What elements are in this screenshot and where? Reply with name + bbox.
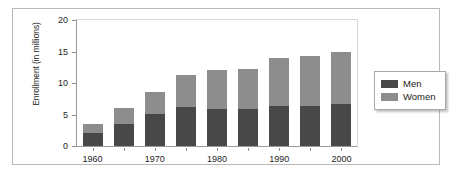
bar-stack[interactable] bbox=[269, 58, 289, 146]
bar-stack[interactable] bbox=[238, 69, 258, 146]
bar-series-group bbox=[77, 20, 357, 146]
bar-segment-women[interactable] bbox=[238, 69, 258, 109]
bar-segment-women[interactable] bbox=[145, 92, 165, 113]
x-tick-mark bbox=[310, 148, 311, 151]
x-tick-label: 1970 bbox=[135, 154, 175, 164]
x-tick-mark bbox=[124, 148, 125, 151]
y-tick-label: 10 bbox=[42, 79, 68, 88]
y-tick-mark bbox=[72, 52, 76, 53]
bar-segment-men[interactable] bbox=[331, 104, 351, 146]
bar-segment-men[interactable] bbox=[83, 133, 103, 146]
bar-segment-women[interactable] bbox=[114, 108, 134, 124]
bar-segment-men[interactable] bbox=[114, 124, 134, 146]
bar-column[interactable] bbox=[295, 20, 326, 146]
y-tick-mark bbox=[72, 146, 76, 147]
bar-stack[interactable] bbox=[114, 108, 134, 146]
bar-segment-men[interactable] bbox=[269, 106, 289, 146]
bar-column[interactable] bbox=[77, 20, 108, 146]
legend-label: Men bbox=[403, 79, 421, 89]
bar-stack[interactable] bbox=[145, 92, 165, 146]
bar-column[interactable] bbox=[264, 20, 295, 146]
bar-column[interactable] bbox=[170, 20, 201, 146]
x-tick-label: 2000 bbox=[321, 154, 361, 164]
x-tick-mark bbox=[186, 148, 187, 151]
legend-swatch-icon bbox=[381, 93, 398, 101]
y-tick-label: 20 bbox=[42, 16, 68, 25]
y-tick-mark bbox=[72, 83, 76, 84]
y-tick-mark bbox=[72, 115, 76, 116]
bar-segment-men[interactable] bbox=[176, 107, 196, 146]
bar-segment-women[interactable] bbox=[83, 124, 103, 133]
bar-stack[interactable] bbox=[331, 52, 351, 146]
bar-segment-men[interactable] bbox=[238, 109, 258, 146]
legend-item[interactable]: Men bbox=[381, 77, 439, 90]
x-tick-label: 1980 bbox=[197, 154, 237, 164]
x-tick-mark bbox=[217, 148, 218, 151]
bar-column[interactable] bbox=[326, 20, 357, 146]
bar-segment-men[interactable] bbox=[145, 114, 165, 146]
bar-segment-women[interactable] bbox=[207, 70, 227, 110]
bar-column[interactable] bbox=[201, 20, 232, 146]
bar-stack[interactable] bbox=[300, 56, 320, 146]
x-tick-mark bbox=[279, 148, 280, 151]
bar-segment-women[interactable] bbox=[331, 52, 351, 105]
y-tick-label: 15 bbox=[42, 48, 68, 57]
bar-column[interactable] bbox=[233, 20, 264, 146]
bar-stack[interactable] bbox=[207, 70, 227, 146]
bar-segment-women[interactable] bbox=[176, 75, 196, 107]
x-tick-mark bbox=[93, 148, 94, 151]
chart-figure: Enrollment (in millions) 05101520 196019… bbox=[12, 8, 440, 165]
x-tick-label: 1990 bbox=[259, 154, 299, 164]
chart-legend: MenWomen bbox=[374, 71, 446, 110]
bar-column[interactable] bbox=[108, 20, 139, 146]
x-tick-mark bbox=[341, 148, 342, 151]
y-tick-label: 0 bbox=[42, 142, 68, 151]
bar-stack[interactable] bbox=[83, 124, 103, 146]
bar-segment-women[interactable] bbox=[269, 58, 289, 106]
bar-segment-men[interactable] bbox=[207, 109, 227, 146]
bar-stack[interactable] bbox=[176, 75, 196, 146]
x-tick-label: 1960 bbox=[73, 154, 113, 164]
y-tick-mark bbox=[72, 20, 76, 21]
bar-segment-women[interactable] bbox=[300, 56, 320, 106]
x-tick-mark bbox=[248, 148, 249, 151]
plot-area: 05101520 bbox=[76, 19, 358, 147]
x-tick-mark bbox=[155, 148, 156, 151]
legend-swatch-icon bbox=[381, 80, 398, 88]
x-axis-ticks: 19601970198019902000 bbox=[76, 148, 358, 166]
y-tick-label: 5 bbox=[42, 111, 68, 120]
legend-label: Women bbox=[403, 92, 436, 102]
bar-segment-men[interactable] bbox=[300, 106, 320, 146]
legend-item[interactable]: Women bbox=[381, 90, 439, 103]
bar-column[interactable] bbox=[139, 20, 170, 146]
